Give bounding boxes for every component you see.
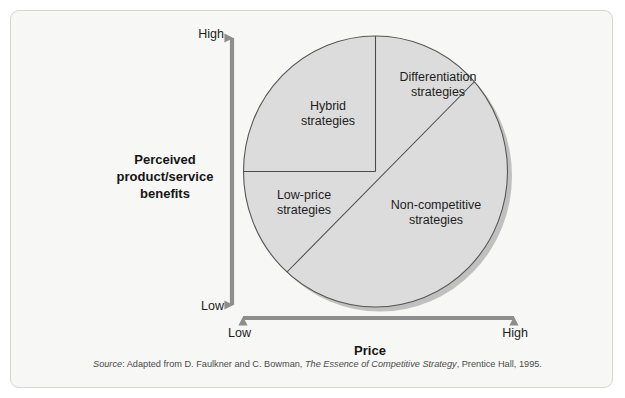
source-note: Source: Adapted from D. Faulkner and C. … <box>93 358 553 371</box>
y-axis-high-label: High <box>178 27 224 42</box>
region-label-hybrid: Hybrid strategies <box>275 99 381 130</box>
x-axis-low-label: Low <box>228 326 274 341</box>
source-text-second: , Prentice Hall, 1995. <box>457 359 542 369</box>
region-label-differentiation: Differentiation strategies <box>375 70 501 101</box>
region-label-non-competitive: Non-competitive strategies <box>372 198 500 229</box>
figure-root: High Low Low High Perceived product/serv… <box>0 0 625 398</box>
y-axis-title: Perceived product/service benefits <box>104 152 226 203</box>
source-book-title: The Essence of Competitive Strategy <box>305 359 457 369</box>
x-axis-high-label: High <box>482 326 528 341</box>
source-prefix: Source <box>93 359 122 369</box>
y-axis-low-label: Low <box>178 299 224 314</box>
region-label-low-price: Low-price strategies <box>250 188 358 219</box>
source-text-first: Adapted from D. Faulkner and C. Bowman, <box>127 359 305 369</box>
